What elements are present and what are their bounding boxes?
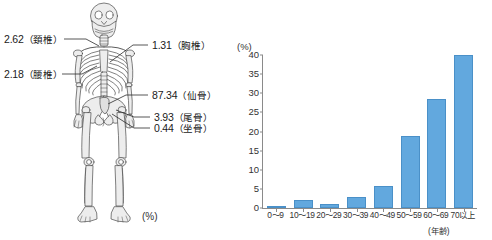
x-tick-label: 50〜59: [396, 211, 422, 219]
callout-lumbar-part: （腰椎）: [24, 69, 63, 80]
bar: [454, 55, 473, 208]
bar-slot: [370, 55, 396, 208]
bar: [320, 204, 339, 208]
bar: [294, 200, 313, 208]
callout-lumbar-value: 2.18: [4, 68, 24, 80]
bar-slot: [424, 55, 450, 208]
x-tick-label: 0〜9: [262, 211, 288, 219]
callout-sacrum-part: （仙骨）: [177, 90, 216, 101]
diagram-unit-label: (%): [142, 211, 158, 222]
bar: [374, 186, 393, 208]
x-tick-label: 10〜19: [289, 211, 315, 219]
x-tick-label: 40〜49: [369, 211, 395, 219]
bar-slot: [451, 55, 477, 208]
callout-ischium-part: （坐骨）: [174, 123, 213, 134]
callout-thoracic-value: 1.31: [152, 39, 172, 51]
callout-lumbar: 2.18（腰椎）: [4, 69, 63, 80]
bar: [347, 197, 366, 208]
callout-sacrum: 87.34（仙骨）: [152, 90, 216, 101]
bar-chart-panel: (%) 0510152025303540 0〜910〜1920〜2930〜394…: [232, 0, 492, 240]
x-tick-label: 30〜39: [343, 211, 369, 219]
callout-ischium-value: 0.44: [154, 122, 174, 134]
figure-root: 2.62（頚椎） 2.18（腰椎） 1.31（胸椎） 87.34（仙骨） 3.9…: [0, 0, 492, 240]
callout-ischium: 0.44（坐骨）: [154, 123, 213, 134]
x-axis-unit-label: (年齢): [428, 224, 450, 236]
callout-cervical: 2.62（頚椎）: [4, 34, 63, 45]
callout-sacrum-value: 87.34: [152, 89, 177, 101]
bar-series: [263, 55, 477, 208]
callout-thoracic: 1.31（胸椎）: [152, 40, 211, 51]
bar-slot: [317, 55, 343, 208]
bar-slot: [397, 55, 423, 208]
callout-coccyx-part: （尾骨）: [174, 112, 213, 123]
bar-slot: [290, 55, 316, 208]
x-axis-labels: 0〜910〜1920〜2930〜3940〜4950〜5960〜6970以上: [262, 211, 476, 219]
bar: [401, 136, 420, 208]
bar: [267, 206, 286, 208]
chart-plot-area: 0510152025303540: [262, 55, 477, 209]
callout-thoracic-part: （胸椎）: [172, 40, 211, 51]
bar-slot: [263, 55, 289, 208]
callout-cervical-value: 2.62: [4, 33, 24, 45]
skeleton-diagram-panel: 2.62（頚椎） 2.18（腰椎） 1.31（胸椎） 87.34（仙骨） 3.9…: [0, 0, 232, 240]
x-tick-label: 20〜29: [316, 211, 342, 219]
callout-coccyx: 3.93（尾骨）: [154, 112, 213, 123]
x-tick-label: 70以上: [450, 211, 476, 219]
bar: [427, 99, 446, 208]
callout-cervical-part: （頚椎）: [24, 34, 63, 45]
bar-slot: [344, 55, 370, 208]
x-tick-label: 60〜69: [423, 211, 449, 219]
